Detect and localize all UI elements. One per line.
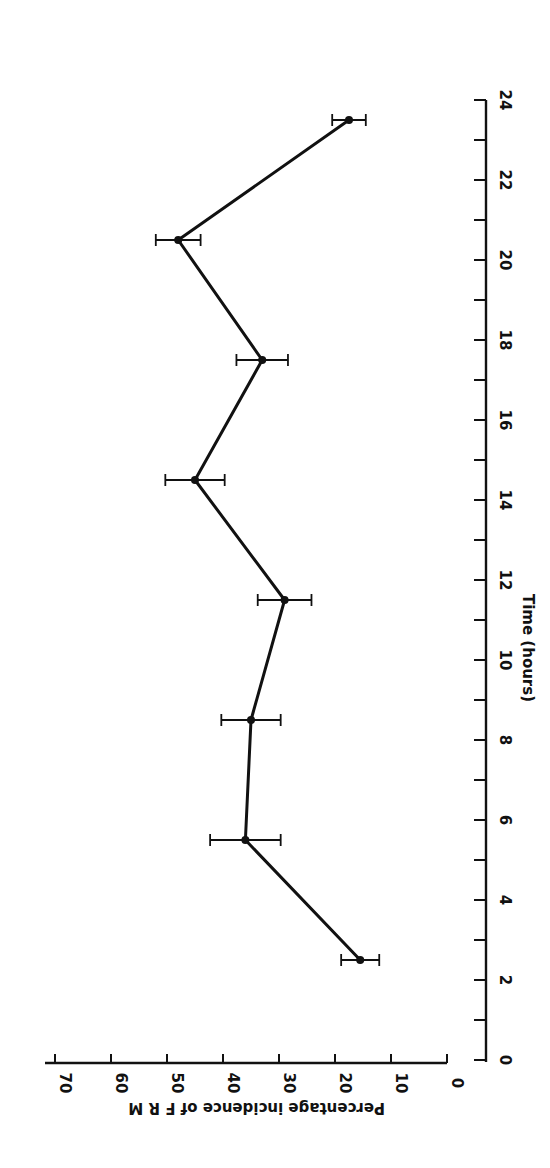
x-tick-label: 8 <box>496 735 514 745</box>
x-tick-label: 18 <box>496 330 514 351</box>
x-axis-title: Time (hours) <box>519 594 537 702</box>
y-tick-label: 30 <box>280 1073 298 1094</box>
x-tick-label: 6 <box>496 815 514 825</box>
x-tick-label: 0 <box>496 1055 514 1065</box>
data-point <box>191 476 199 484</box>
data-line <box>178 120 360 960</box>
data-point <box>345 116 353 124</box>
x-tick-label: 14 <box>496 490 514 511</box>
x-tick-label: 20 <box>496 250 514 271</box>
x-tick-label: 24 <box>496 90 514 111</box>
data-point <box>247 716 255 724</box>
x-tick-label: 12 <box>496 570 514 591</box>
data-point <box>174 236 182 244</box>
data-point <box>356 956 364 964</box>
y-tick-label: 0 <box>448 1078 466 1088</box>
data-point <box>258 356 266 364</box>
y-tick-label: 60 <box>112 1073 130 1094</box>
data-point <box>281 596 289 604</box>
x-tick-label: 4 <box>496 895 514 905</box>
data-point <box>241 836 249 844</box>
plot-area <box>156 114 379 966</box>
chart: 024681012141618202224 010203040506070 Ti… <box>0 0 550 1168</box>
y-tick-label: 50 <box>168 1073 186 1094</box>
x-tick-label: 2 <box>496 975 514 985</box>
y-tick-label: 20 <box>336 1073 354 1094</box>
y-tick-label: 40 <box>224 1073 242 1094</box>
x-tick-label: 10 <box>496 650 514 671</box>
x-axis-time: 024681012141618202224 <box>474 90 514 1066</box>
y-tick-label: 70 <box>56 1073 74 1094</box>
x-tick-label: 16 <box>496 410 514 431</box>
y-axis-percentage: 010203040506070 <box>45 1054 466 1093</box>
y-axis-title: Percentage incidence of F R M <box>128 1099 385 1117</box>
y-tick-label: 10 <box>392 1073 410 1094</box>
x-tick-label: 22 <box>496 170 514 191</box>
